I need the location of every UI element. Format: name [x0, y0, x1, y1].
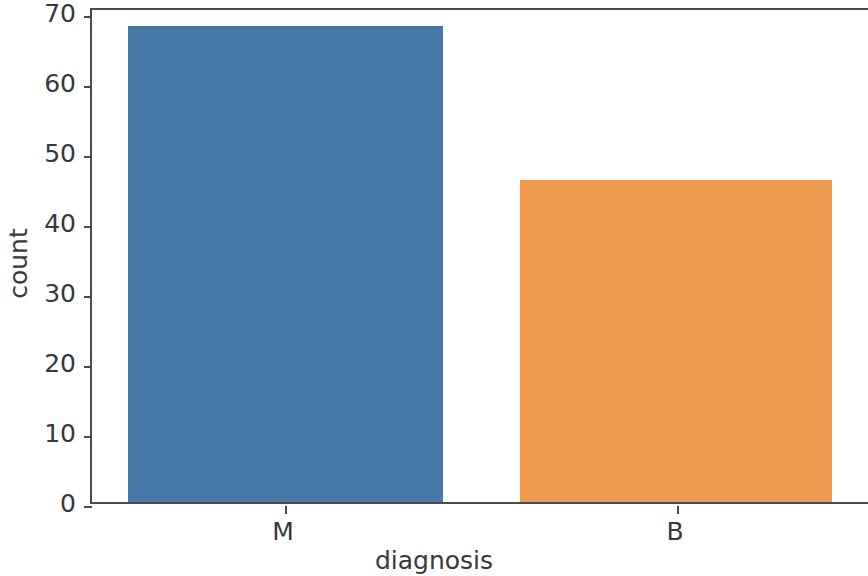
plot-area — [90, 8, 868, 504]
y-tick-20 — [84, 366, 92, 368]
x-tick-m — [285, 506, 287, 514]
y-axis-label: count — [4, 184, 33, 344]
x-axis-label: diagnosis — [0, 546, 868, 575]
y-tick-label-30: 30 — [16, 281, 76, 306]
y-tick-10 — [84, 436, 92, 438]
y-tick-30 — [84, 296, 92, 298]
bar-m — [128, 26, 443, 502]
x-tick-b — [677, 506, 679, 514]
y-tick-50 — [84, 156, 92, 158]
y-tick-label-10: 10 — [16, 421, 76, 446]
x-tick-label-m: M — [243, 519, 323, 544]
y-tick-label-50: 50 — [16, 141, 76, 166]
y-tick-label-0: 0 — [16, 491, 76, 516]
y-tick-label-20: 20 — [16, 351, 76, 376]
y-tick-label-70: 70 — [16, 1, 76, 26]
bar-b — [520, 180, 832, 502]
y-tick-label-60: 60 — [16, 71, 76, 96]
x-tick-label-b: B — [635, 519, 715, 544]
y-tick-0 — [84, 506, 92, 508]
y-tick-60 — [84, 86, 92, 88]
y-tick-40 — [84, 226, 92, 228]
y-tick-label-40: 40 — [16, 211, 76, 236]
bar-chart-figure: count 010203040506070 MB diagnosis — [0, 0, 868, 576]
y-tick-70 — [84, 16, 92, 18]
